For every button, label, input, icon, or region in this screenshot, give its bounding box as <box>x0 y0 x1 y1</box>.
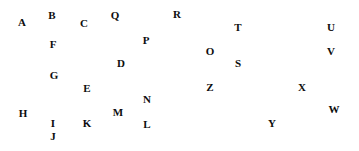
letter-o: O <box>206 46 215 57</box>
letter-x: X <box>298 82 306 93</box>
letter-g: G <box>50 70 59 81</box>
letter-w: W <box>329 104 340 115</box>
letter-j: J <box>50 131 56 142</box>
letter-p: P <box>143 35 150 46</box>
letter-h: H <box>19 108 28 119</box>
letter-t: T <box>234 22 241 33</box>
letter-r: R <box>173 9 181 20</box>
letter-y: Y <box>268 118 276 129</box>
letter-k: K <box>83 118 92 129</box>
letter-n: N <box>143 94 151 105</box>
letter-e: E <box>83 83 90 94</box>
letter-m: M <box>113 107 123 118</box>
letter-scatter-canvas: ABCDEFGHIJKLMNOPQRSTUVWXYZ <box>0 0 359 151</box>
letter-s: S <box>235 58 241 69</box>
letter-l: L <box>143 119 150 130</box>
letter-c: C <box>80 18 88 29</box>
letter-a: A <box>18 17 26 28</box>
letter-f: F <box>50 39 57 50</box>
letter-u: U <box>327 22 335 33</box>
letter-v: V <box>327 46 335 57</box>
letter-z: Z <box>206 82 213 93</box>
letter-d: D <box>117 58 125 69</box>
letter-q: Q <box>111 10 120 21</box>
letter-i: I <box>51 118 55 129</box>
letter-b: B <box>48 10 55 21</box>
